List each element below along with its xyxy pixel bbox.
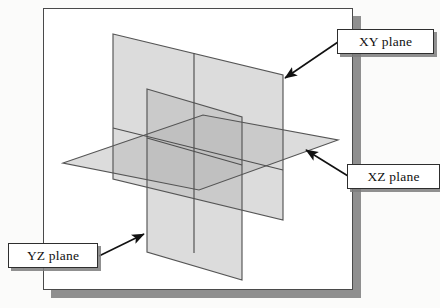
callout-label-yz-plane: YZ plane: [8, 243, 98, 268]
callout-text-xz: XZ plane: [367, 170, 419, 184]
arrow-xz-plane: [306, 150, 348, 176]
callout-text-xy: XY plane: [359, 35, 412, 49]
callout-label-xz-plane: XZ plane: [347, 164, 440, 189]
arrow-xy-plane: [285, 42, 338, 78]
diagram-page: XY plane XZ plane YZ plane: [0, 0, 440, 308]
callout-text-yz: YZ plane: [27, 249, 79, 263]
arrow-yz-plane: [99, 234, 144, 256]
callout-label-xy-plane: XY plane: [337, 29, 434, 54]
